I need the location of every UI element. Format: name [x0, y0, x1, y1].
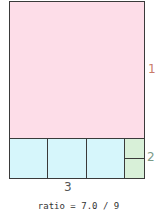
cyan-cell-3 [86, 138, 125, 179]
green-label: 2 [147, 150, 155, 164]
ratio-text: ratio = 7.0 / 9 [0, 201, 157, 211]
cyan-label: 3 [64, 180, 72, 194]
cyan-cell-1 [9, 138, 48, 179]
cyan-cell-2 [47, 138, 87, 179]
green-cell-bottom [124, 158, 145, 179]
pink-label: 1 [148, 62, 156, 76]
pink-square [9, 1, 145, 139]
green-cell-top [124, 138, 145, 159]
